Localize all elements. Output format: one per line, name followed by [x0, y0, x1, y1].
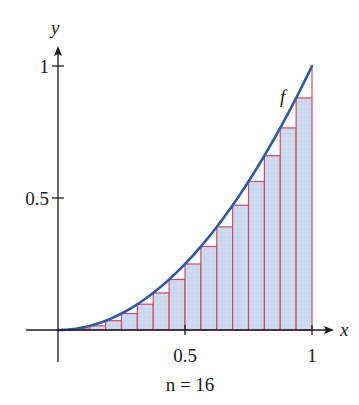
riemann-rectangle — [201, 246, 217, 330]
riemann-rectangle — [122, 314, 138, 331]
riemann-rectangles — [58, 98, 312, 330]
riemann-sum-chart: 0.51 0.51 x y f n = 16 — [0, 0, 359, 405]
x-tick-label: 0.5 — [173, 345, 197, 366]
riemann-rectangle — [106, 321, 122, 330]
riemann-rectangle — [233, 205, 249, 330]
x-ticks: 0.51 — [173, 325, 317, 366]
riemann-rectangle — [249, 182, 265, 331]
riemann-rectangle — [296, 98, 312, 330]
riemann-rectangle — [280, 128, 296, 330]
riemann-rectangle — [264, 156, 280, 330]
riemann-rectangle — [137, 304, 153, 330]
riemann-rectangle — [153, 293, 169, 330]
riemann-rectangle — [217, 227, 233, 330]
function-label: f — [280, 86, 288, 107]
riemann-rectangle — [185, 264, 201, 330]
x-axis-label: x — [339, 319, 349, 340]
y-tick-label: 0.5 — [25, 188, 49, 209]
y-axis — [54, 46, 62, 362]
n-label: n = 16 — [166, 374, 215, 395]
y-tick-label: 1 — [40, 56, 50, 77]
x-tick-label: 1 — [307, 345, 317, 366]
y-axis-label: y — [49, 17, 60, 38]
riemann-rectangle — [169, 279, 185, 330]
